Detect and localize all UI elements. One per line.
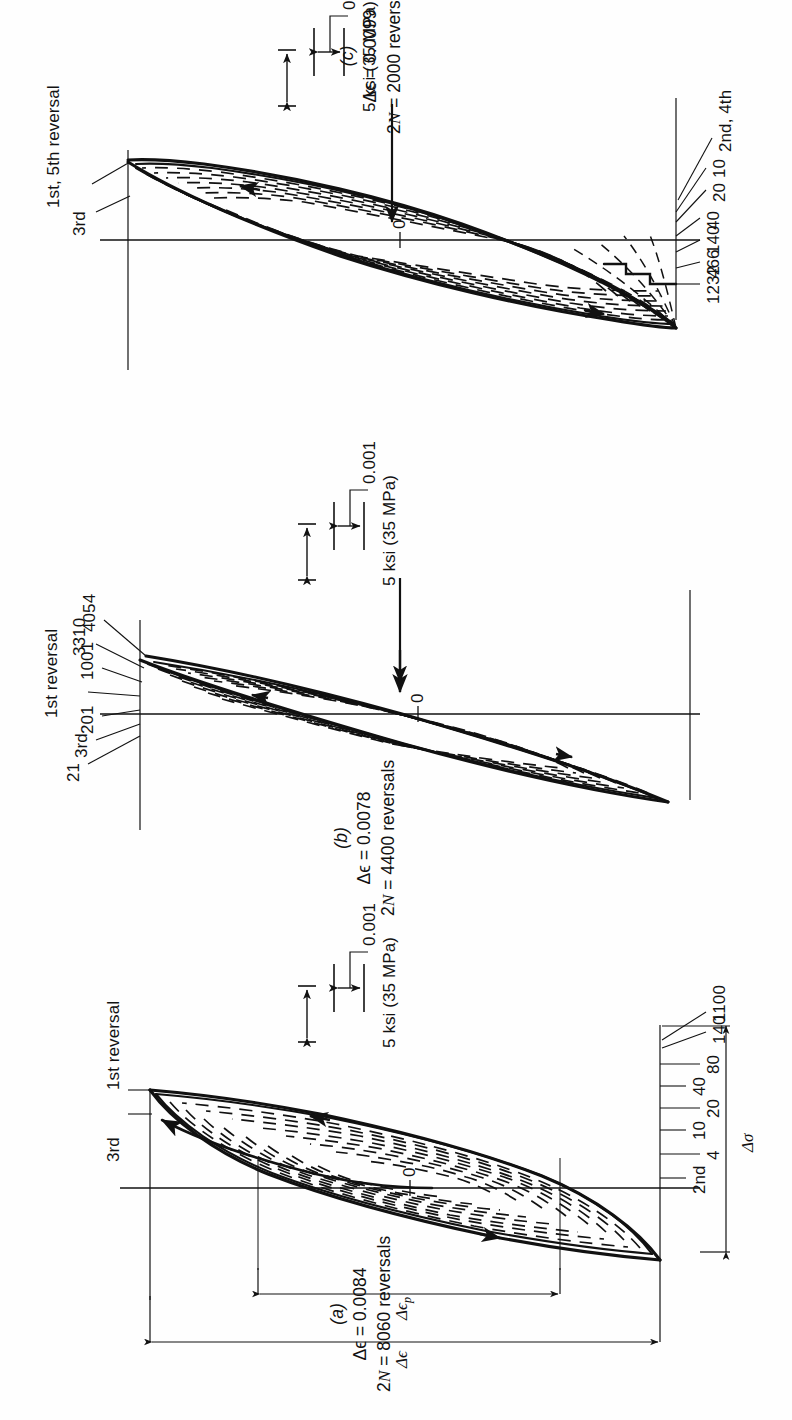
panel-b-caption-reversals: 2N = 4400 reversals: [377, 760, 400, 916]
panel-c-label-1st-5th-reversal: 1st, 5th reversal: [44, 85, 64, 208]
panel-b: (b) Δϵ = 0.0078 2N = 4400 reversals 0 21…: [0, 480, 792, 950]
panel-a-delta-eps-label: Δϵ: [392, 1351, 412, 1368]
panel-b-label-4054: 4054: [80, 594, 100, 632]
panel-a-label-10: 10: [690, 1121, 710, 1140]
panel-c-label-40: 40: [704, 211, 724, 230]
panel-c-label-3rd: 3rd: [70, 211, 90, 236]
panel-b-secondary-loop-solid: [148, 662, 656, 798]
panel-c-top-leaders: [92, 162, 130, 212]
panel-c-label-2nd-4th: 2nd, 4th: [716, 90, 736, 152]
panel-c-flow-arrows: [240, 186, 604, 314]
panel-c-zero-label: 0: [390, 219, 410, 229]
panel-a-zero-label: 0: [400, 1167, 420, 1177]
panel-a-label-80: 80: [704, 1055, 724, 1074]
panel-a-label-1100: 1100: [710, 985, 730, 1022]
panel-c-secondary-loop-solid: [136, 164, 674, 324]
panel-c: (c) Δϵ = 0.0099 2N = 2000 reversals 0 3r…: [0, 0, 792, 480]
panel-c-scale-stress-label: 5 ksi (35 MPa): [360, 1, 380, 112]
panel-a-delta-eps-p-dimension: [258, 1268, 560, 1294]
panel-c-label-10: 10: [710, 159, 730, 178]
panel-b-scale-stress-label: 5 ksi (35 MPa): [380, 475, 400, 586]
panel-a-caption: (a) Δϵ = 0.0084 2N = 8060 reversals: [326, 1236, 396, 1392]
panel-b-caption-id: (b): [330, 760, 353, 916]
rotated-figure-canvas: (a) Δϵ = 0.0084 2N = 8060 reversals Δϵ Δ…: [0, 0, 792, 1420]
panel-c-scale-strain-label: 0.001: [340, 0, 360, 10]
panel-a-caption-id: (a): [326, 1236, 349, 1392]
panel-b-caption-strain: Δϵ = 0.0078: [353, 760, 376, 916]
panel-c-scale-legend-glyph: [252, 0, 348, 112]
panel-a-delta-eps-p-label: Δϵp: [392, 1297, 415, 1320]
panel-b-scale-legend-glyph: [272, 462, 368, 586]
panel-b-label-201: 201: [78, 705, 98, 734]
panel-a-delta-sigma-label: Δσ: [738, 1133, 758, 1152]
panel-b-label-21: 21: [64, 763, 84, 782]
panel-a-label-40: 40: [690, 1077, 710, 1096]
panel-a-caption-strain: Δϵ = 0.0084: [349, 1236, 372, 1392]
panel-b-zero-label: 0: [408, 693, 428, 703]
panel-b-caption: (b) Δϵ = 0.0078 2N = 4400 reversals: [330, 760, 400, 916]
panel-c-label-20: 20: [710, 183, 730, 202]
panel-b-label-3rd: 3rd: [72, 733, 92, 758]
panel-b-dashed-loop-family: [158, 665, 648, 793]
panel-a-label-2nd: 2nd: [690, 1165, 710, 1194]
panel-c-caption-reversals: 2N = 2000 reversals: [383, 0, 406, 134]
panel-c-dashed-loop-family: [142, 168, 670, 320]
panel-a-label-1st-reversal: 1st reversal: [104, 1001, 124, 1090]
panel-a: (a) Δϵ = 0.0084 2N = 8060 reversals Δϵ Δ…: [0, 950, 792, 1420]
panel-a-label-3rd: 3rd: [104, 1137, 124, 1162]
panel-b-flow-arrows: [252, 650, 572, 757]
panel-a-label-20: 20: [704, 1099, 724, 1118]
panel-a-top-leaders: [128, 1090, 152, 1114]
figure-page: (a) Δϵ = 0.0084 2N = 8060 reversals Δϵ Δ…: [0, 0, 792, 1420]
panel-b-label-1st-reversal: 1st reversal: [42, 629, 62, 718]
panel-a-label-4: 4: [704, 1150, 724, 1160]
panel-a-scale-stress-label: 5 ksi (35 MPa): [380, 937, 400, 1048]
